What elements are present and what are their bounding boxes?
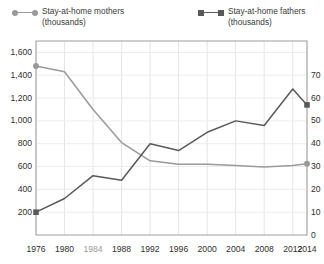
chart-plot-area — [0, 30, 324, 264]
chart-legend: Stay-at-home mothers (thousands) Stay-at… — [0, 0, 324, 34]
x-axis-tick-label: 2014 — [291, 245, 323, 254]
x-axis-tick-label: 1996 — [163, 245, 195, 254]
legend-item-stay-at-home-fathers: Stay-at-home fathers (thousands) — [198, 6, 305, 27]
left-axis-tick-label: 800 — [0, 139, 32, 148]
x-axis-tick-label: 1980 — [49, 245, 81, 254]
right-axis-tick-label: 30 — [311, 162, 321, 171]
legend-mothers-name: Stay-at-home mothers — [42, 6, 124, 16]
right-axis-tick-label: 70 — [311, 71, 321, 80]
x-axis-tick-label: 1984 — [77, 245, 109, 254]
x-axis-tick-label: 2004 — [220, 245, 252, 254]
x-axis-tick-label: 1976 — [20, 245, 52, 254]
left-axis-tick-label: 1,200 — [0, 94, 32, 103]
x-axis-tick-label: 2008 — [248, 245, 280, 254]
legend-label-mothers: Stay-at-home mothers (thousands) — [38, 6, 124, 27]
x-axis-tick-label: 1992 — [134, 245, 166, 254]
right-axis-tick-label: 40 — [311, 139, 321, 148]
right-axis-tick-label: 10 — [311, 208, 321, 217]
left-axis-tick-label: 600 — [0, 162, 32, 171]
left-axis-tick-label: 1,600 — [0, 48, 32, 57]
left-axis-tick-label: 400 — [0, 185, 32, 194]
left-axis-tick-label: 200 — [0, 208, 32, 217]
legend-mothers-unit: (thousands) — [42, 17, 124, 28]
circle-marker-icon — [12, 8, 38, 18]
right-axis-tick-label: 50 — [311, 116, 321, 125]
line-chart: 2004006008001,0001,2001,4001,60001020304… — [0, 30, 324, 264]
left-axis-tick-label: 1,000 — [0, 116, 32, 125]
chart-screenshot: Stay-at-home mothers (thousands) Stay-at… — [0, 0, 324, 264]
right-axis-tick-label: 60 — [311, 94, 321, 103]
legend-label-fathers: Stay-at-home fathers (thousands) — [224, 6, 305, 27]
legend-fathers-unit: (thousands) — [228, 17, 305, 28]
legend-fathers-name: Stay-at-home fathers — [228, 6, 305, 16]
square-marker-icon — [198, 8, 224, 18]
right-axis-tick-label: 0 — [311, 231, 316, 240]
right-axis-tick-label: 20 — [311, 185, 321, 194]
left-axis-tick-label: 1,400 — [0, 71, 32, 80]
legend-item-stay-at-home-mothers: Stay-at-home mothers (thousands) — [12, 6, 124, 27]
x-axis-tick-label: 1988 — [106, 245, 138, 254]
x-axis-tick-label: 2000 — [191, 245, 223, 254]
